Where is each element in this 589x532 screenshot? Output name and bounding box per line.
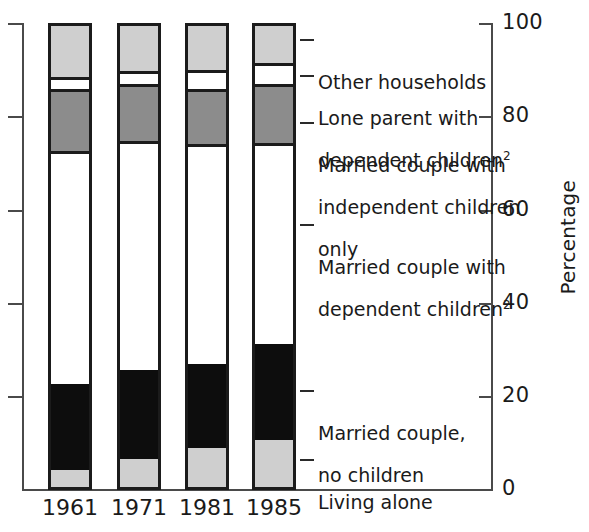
bar-1985[interactable] bbox=[252, 23, 296, 490]
leader-line-other-households bbox=[300, 39, 314, 41]
segment-1985-living-alone bbox=[255, 440, 293, 487]
leader-line-married-no-children bbox=[300, 390, 314, 392]
y-tick-left-60 bbox=[8, 210, 23, 212]
y-axis-label-0: 0 bbox=[502, 478, 516, 499]
stacked-bar-chart: 100 80 60 40 20 0 Percentage bbox=[0, 0, 589, 532]
segment-1961-living-alone bbox=[51, 470, 89, 487]
callout-dependent-children: Married couple with dependent children2 bbox=[318, 215, 511, 341]
segment-1985-married-no-children bbox=[255, 344, 293, 441]
segment-1981-living-alone bbox=[188, 448, 226, 488]
segment-1961-other-households bbox=[51, 26, 89, 80]
y-tick-left-40 bbox=[8, 303, 23, 305]
y-tick-left-100 bbox=[8, 23, 23, 25]
leader-line-living-alone bbox=[300, 459, 314, 461]
y-tick-right-20 bbox=[479, 396, 493, 398]
segment-1961-independent-children bbox=[51, 92, 89, 153]
segment-1971-independent-children bbox=[120, 87, 158, 144]
segment-1985-dependent-children bbox=[255, 146, 293, 343]
y-axis-title-container: Percentage bbox=[556, 180, 582, 380]
bar-1971[interactable] bbox=[117, 23, 161, 490]
y-axis-title: Percentage bbox=[556, 180, 580, 295]
y-tick-left-20 bbox=[8, 396, 23, 398]
leader-line-dependent-children bbox=[300, 224, 314, 226]
segment-1985-independent-children bbox=[255, 87, 293, 146]
x-axis-label-1971: 1971 bbox=[109, 496, 169, 520]
segment-1981-other-households bbox=[188, 26, 226, 73]
segment-1985-lone-parent bbox=[255, 66, 293, 88]
y-tick-left-80 bbox=[8, 116, 23, 118]
footnote-marker-2b: 2 bbox=[503, 298, 511, 312]
segment-1981-lone-parent bbox=[188, 73, 226, 93]
x-axis-label-1981: 1981 bbox=[177, 496, 237, 520]
segment-1981-dependent-children bbox=[188, 147, 226, 364]
bar-1981[interactable] bbox=[185, 23, 229, 490]
x-axis-label-1985: 1985 bbox=[244, 496, 304, 520]
callout-married-no-children-line1: Married couple, bbox=[318, 423, 466, 444]
segment-1971-lone-parent bbox=[120, 74, 158, 87]
y-axis-label-100: 100 bbox=[502, 12, 543, 33]
segment-1971-living-alone bbox=[120, 459, 158, 487]
bar-1961[interactable] bbox=[48, 23, 92, 490]
callout-dependent-children-line1: Married couple with bbox=[318, 257, 511, 278]
callout-living-alone-line1: Living alone bbox=[318, 492, 433, 513]
segment-1961-married-no-children bbox=[51, 384, 89, 471]
y-axis-label-20: 20 bbox=[502, 385, 529, 406]
callout-dependent-children-line2: dependent children2 bbox=[318, 299, 511, 320]
segment-1981-independent-children bbox=[188, 92, 226, 146]
segment-1971-married-no-children bbox=[120, 370, 158, 459]
segment-1971-other-households bbox=[120, 26, 158, 74]
callout-living-alone: Living alone bbox=[318, 450, 433, 532]
callout-independent-children-line1: Married couple with bbox=[318, 155, 520, 176]
segment-1961-lone-parent bbox=[51, 80, 89, 92]
leader-line-lone-parent bbox=[300, 75, 314, 77]
y-tick-right-100 bbox=[479, 23, 493, 25]
segment-1971-dependent-children bbox=[120, 144, 158, 370]
segment-1981-married-no-children bbox=[188, 364, 226, 448]
y-axis-left-spine bbox=[22, 23, 24, 491]
segment-1985-other-households bbox=[255, 26, 293, 66]
x-axis-label-1961: 1961 bbox=[40, 496, 100, 520]
leader-line-independent-children bbox=[300, 122, 314, 124]
segment-1961-dependent-children bbox=[51, 154, 89, 384]
